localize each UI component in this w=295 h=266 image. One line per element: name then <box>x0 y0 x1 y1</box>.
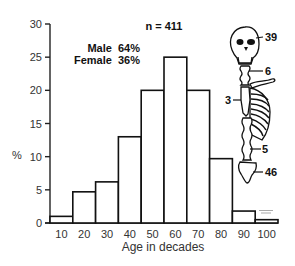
x-tick-label: 60 <box>169 228 181 240</box>
skull-count-label: 39 <box>265 31 277 43</box>
y-axis-label: % <box>12 149 22 161</box>
male-percent-annotation: Male 64% <box>87 42 140 54</box>
x-tick-label: 80 <box>215 228 227 240</box>
bar-10 <box>50 216 73 223</box>
x-tick-label: 90 <box>238 228 250 240</box>
x-tick-label: 50 <box>146 228 158 240</box>
x-tick-label: 40 <box>124 228 136 240</box>
x-tick-label: 30 <box>101 228 113 240</box>
female-percent-annotation: Female 36% <box>74 54 140 66</box>
bar-100 <box>255 220 278 223</box>
skull-icon <box>231 27 259 64</box>
thoracic-count-label: 3 <box>225 94 231 106</box>
thoracic-spine-icon <box>241 87 250 116</box>
lumbar-spine-icon <box>242 118 252 160</box>
cervical-count-label: 6 <box>265 65 271 77</box>
x-tick-labels: 102030405060708090100 <box>55 228 276 240</box>
clavicle-icon <box>250 79 275 88</box>
y-tick-label: 10 <box>30 151 42 163</box>
bar-30 <box>96 182 119 223</box>
bar-80 <box>210 159 233 223</box>
copyright-mark <box>259 210 273 214</box>
lumbar-count-label: 5 <box>262 143 268 155</box>
bar-40 <box>118 137 141 223</box>
y-tick-label: 15 <box>30 118 42 130</box>
y-tick-label: 30 <box>30 18 42 30</box>
sacrum-count-label: 46 <box>265 166 277 178</box>
bar-70 <box>187 90 210 223</box>
y-tick-label: 0 <box>36 217 42 229</box>
y-tick-label: 5 <box>36 184 42 196</box>
x-axis-label: Age in decades <box>122 240 205 254</box>
rib-cage-icon <box>250 88 270 140</box>
sample-size-annotation: n = 411 <box>145 20 182 32</box>
histogram-chart: 051015202530 102030405060708090100 % Age… <box>0 0 295 266</box>
bar-50 <box>141 90 164 223</box>
x-tick-label: 100 <box>257 228 275 240</box>
y-tick-labels: 051015202530 <box>30 18 42 229</box>
bar-20 <box>73 192 96 223</box>
y-tick-label: 20 <box>30 84 42 96</box>
bar-60 <box>164 57 187 223</box>
cervical-spine-icon <box>240 66 250 85</box>
y-tick-label: 25 <box>30 51 42 63</box>
x-tick-label: 20 <box>78 228 90 240</box>
bar-90 <box>232 211 255 223</box>
x-tick-label: 10 <box>55 228 67 240</box>
x-tick-label: 70 <box>192 228 204 240</box>
